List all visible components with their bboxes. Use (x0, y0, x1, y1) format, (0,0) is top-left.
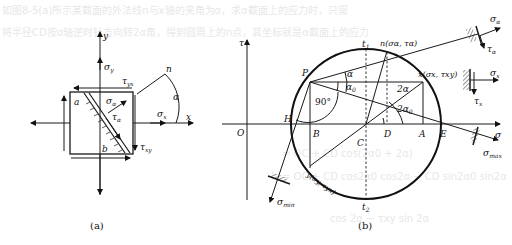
radius-c-n (366, 51, 387, 124)
two-alpha0-arc (383, 118, 384, 124)
mohr-circle-figure: 如图8-5(a)所示某截面的外法线n与x轴的夹角为α，求α截面上的应力时，只需 … (0, 0, 512, 245)
alpha-label: α (347, 69, 353, 79)
point-c-label: C (357, 138, 364, 148)
two-alpha0-label: 2α0 (396, 104, 413, 115)
point-h-label: H (283, 114, 292, 124)
background-formula1: = OC + CD cos(2α0 + 2α) (282, 148, 413, 159)
point-d-label: D (383, 129, 391, 139)
normal-label: n (166, 64, 172, 74)
background-formula3: cos 2α − τxy sin 2α (330, 213, 430, 224)
point-e-label: E (439, 129, 447, 139)
y-axis-label: y (102, 31, 109, 41)
two-alpha-label: 2α (396, 84, 409, 94)
figure-canvas: 如图8-5(a)所示某截面的外法线n与x轴的夹角为α，求α截面上的应力时，只需 … (0, 0, 512, 245)
tau-alpha-label-b: τα (487, 44, 496, 55)
normal-line (137, 74, 165, 94)
right-angle-label: 90° (315, 97, 331, 107)
tau-axis-label: τ (239, 38, 245, 48)
sigma-alpha-label-b: σα (490, 14, 500, 25)
point-n-label: n(σα, τα) (380, 39, 417, 48)
point-t2-label: t2 (362, 202, 370, 213)
sigma-y-label: σy (104, 62, 114, 74)
corner-a-label: a (74, 97, 79, 107)
origin-label: O (237, 128, 245, 138)
sigma-axis-label: σ (495, 130, 502, 140)
panel-a: y x σy σx τyx τxy (31, 31, 193, 231)
point-a-label: A (418, 129, 426, 139)
sigma-alpha-label: σα (106, 96, 116, 107)
tau-alpha-label: τα (112, 112, 121, 123)
panel-b: τ σ O P H B C D A E (222, 14, 502, 231)
background-text-line1: 如图8-5(a)所示某截面的外法线n与x轴的夹角为α，求α截面上的应力时，只需 (2, 4, 348, 16)
sigma-min-label: σmin (277, 197, 295, 208)
alpha0-arc (337, 82, 338, 91)
x-plane-hatch (463, 70, 469, 90)
tau-xy-label: τxy (140, 142, 152, 154)
point-t1-label: t1 (362, 39, 369, 50)
sigma-max-label: σmax (483, 148, 502, 159)
sigma-x-label: σx (157, 109, 167, 120)
x-axis-label: x (186, 112, 191, 122)
tau-x-label-b: τx (474, 96, 483, 107)
caption-a: (a) (90, 220, 104, 231)
corner-b-label: b (102, 144, 108, 154)
sigma-x-label-b: σx (490, 68, 500, 79)
point-b-label: B (312, 129, 320, 139)
alpha0-label: α0 (346, 82, 356, 93)
background-text-line2: 将半径CD按σ轴逆时针方向转2α角，得到圆周上的n点，其坐标就是α截面上的应力 (2, 26, 369, 38)
point-x-label: x(σx, τxy) (418, 70, 457, 79)
sigma-alpha-arrow-b (479, 28, 500, 36)
tau-yx-label: τyx (122, 76, 134, 88)
angle-alpha-label: α (173, 92, 179, 102)
caption-b: (b) (358, 220, 372, 231)
point-p-label: P (301, 68, 309, 78)
